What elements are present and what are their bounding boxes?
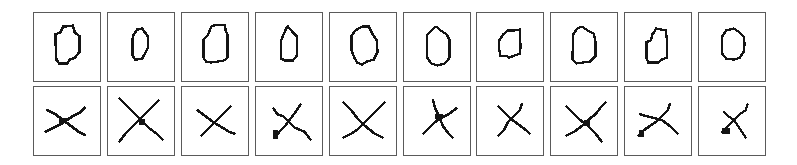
cross-glyph-icon xyxy=(34,87,100,155)
zero-glyph-icon xyxy=(34,13,100,81)
cross-sample-cell xyxy=(181,86,249,156)
cross-glyph-icon xyxy=(256,87,322,155)
zero-glyph-icon xyxy=(330,13,396,81)
cross-sample-cell xyxy=(550,86,618,156)
cross-glyph-icon xyxy=(330,87,396,155)
cross-glyph-icon xyxy=(404,87,470,155)
row-label: Handwritten zero samples xyxy=(0,0,1,1)
zero-sample-cell xyxy=(181,12,249,82)
cross-sample-cell xyxy=(107,86,175,156)
row-label: Handwritten cross samples xyxy=(0,0,1,1)
zero-glyph-icon xyxy=(551,13,617,81)
cross-sample-cell xyxy=(624,86,692,156)
cross-glyph-icon xyxy=(182,87,248,155)
cross-sample-cell xyxy=(329,86,397,156)
zero-sample-cell xyxy=(624,12,692,82)
cross-sample-cell xyxy=(698,86,766,156)
zero-sample-cell xyxy=(550,12,618,82)
zero-glyph-icon xyxy=(108,13,174,81)
cross-sample-cell xyxy=(255,86,323,156)
zero-sample-cell xyxy=(33,12,101,82)
cross-glyph-icon xyxy=(108,87,174,155)
zero-glyph-icon xyxy=(404,13,470,81)
zero-sample-cell xyxy=(107,12,175,82)
zero-sample-cell xyxy=(698,12,766,82)
cross-glyph-icon xyxy=(477,87,543,155)
cross-sample-cell xyxy=(476,86,544,156)
zero-sample-cell xyxy=(329,12,397,82)
cross-glyph-icon xyxy=(551,87,617,155)
zero-sample-cell xyxy=(255,12,323,82)
zero-sample-cell xyxy=(403,12,471,82)
zero-glyph-icon xyxy=(699,13,765,81)
zero-glyph-icon xyxy=(256,13,322,81)
zero-sample-cell xyxy=(476,12,544,82)
cross-sample-cell xyxy=(33,86,101,156)
digit-sample-grid: Handwritten zero samplesHandwritten cros… xyxy=(0,0,797,165)
zero-glyph-icon xyxy=(182,13,248,81)
cross-glyph-icon xyxy=(625,87,691,155)
zero-glyph-icon xyxy=(477,13,543,81)
cross-sample-cell xyxy=(403,86,471,156)
cross-glyph-icon xyxy=(699,87,765,155)
zero-glyph-icon xyxy=(625,13,691,81)
